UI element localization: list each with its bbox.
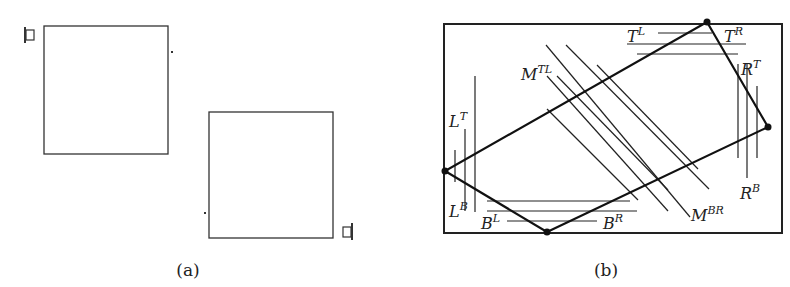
label-m-tl: MTL: [520, 63, 552, 84]
label-b-r: BR: [602, 212, 623, 233]
caption-b: (b): [594, 260, 618, 280]
figure-canvas: (a): [0, 0, 790, 287]
label-l-b: LB: [448, 200, 468, 221]
square-top-left: [44, 26, 168, 154]
marker-dot-left: [204, 212, 206, 214]
label-b-l: BL: [480, 212, 500, 233]
marker-dot-right: [171, 51, 173, 53]
label-m-br: MBR: [690, 204, 724, 225]
label-r-t: RT: [740, 58, 762, 79]
label-l-t: LT: [448, 110, 469, 131]
label-t-r: TR: [724, 25, 743, 46]
connector-icon-top-left: [25, 27, 34, 43]
left-lines: [455, 76, 475, 212]
diagonal-lines: [546, 45, 709, 217]
label-r-b: RB: [739, 182, 760, 203]
caption-a: (a): [176, 260, 199, 280]
panel-b: TL TR RT RB LT LB BL BR MTL MBR (b): [442, 19, 783, 281]
connector-icon-bottom-right: [343, 223, 352, 240]
panel-a: (a): [25, 26, 352, 280]
label-t-l: TL: [627, 25, 645, 46]
square-bottom-right: [209, 112, 333, 238]
